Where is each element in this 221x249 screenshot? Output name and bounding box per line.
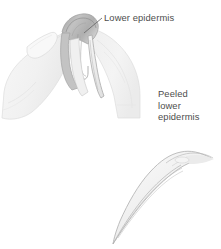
annotation-label-peeled-lower-epidermis: Peeledlowerepidermis [158, 88, 200, 123]
annotation-label-lower-epidermis: Lower epidermis [104, 12, 174, 24]
leaf-peeling-illustration [0, 0, 221, 249]
peeled-label-line-3: epidermis [158, 111, 200, 122]
figure-root: Lower epidermis Peeledlowerepidermis [0, 0, 221, 249]
peeled-label-line-1: Peeled [158, 88, 188, 99]
peeled-strip [113, 151, 214, 244]
peeled-label-line-2: lower [158, 100, 181, 111]
